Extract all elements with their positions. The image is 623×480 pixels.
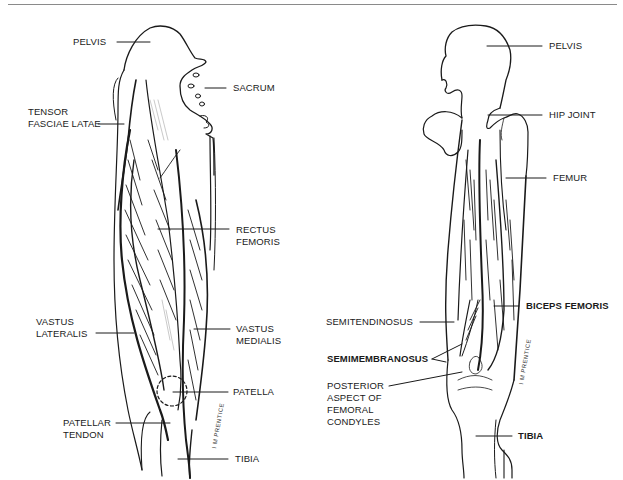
label-tibia-anterior: TIBIA: [235, 453, 259, 465]
label-pelvis-posterior: PELVIS: [549, 40, 582, 52]
label-rectus-femoris: RECTUS FEMORIS: [236, 224, 280, 248]
label-femur: FEMUR: [553, 172, 587, 184]
label-pelvis-anterior: PELVIS: [73, 36, 106, 48]
label-posterior-aspect-femoral-condyles: POSTERIOR ASPECT OF FEMORAL CONDYLES: [327, 380, 384, 428]
posterior-leg-drawing: [389, 25, 546, 478]
label-vastus-lateralis: VASTUS LATERALIS: [36, 316, 87, 340]
label-biceps-femoris: BICEPS FEMORIS: [526, 300, 609, 312]
thigh-muscle-illustration: [0, 0, 623, 480]
anterior-leg-drawing: [96, 26, 230, 478]
label-tensor-fasciae-latae: TENSOR FASCIAE LATAE: [28, 106, 101, 130]
label-semitendinosus: SEMITENDINOSUS: [326, 316, 413, 328]
label-tibia-posterior: TIBIA: [518, 430, 543, 442]
label-patella: PATELLA: [233, 386, 274, 398]
label-hip-joint: HIP JOINT: [549, 109, 596, 121]
label-patellar-tendon: PATELLAR TENDON: [63, 417, 111, 441]
label-vastus-medialis: VASTUS MEDIALIS: [236, 323, 281, 347]
label-sacrum: SACRUM: [233, 82, 275, 94]
label-semimembranosus: SEMIMEMBRANOSUS: [327, 353, 428, 365]
